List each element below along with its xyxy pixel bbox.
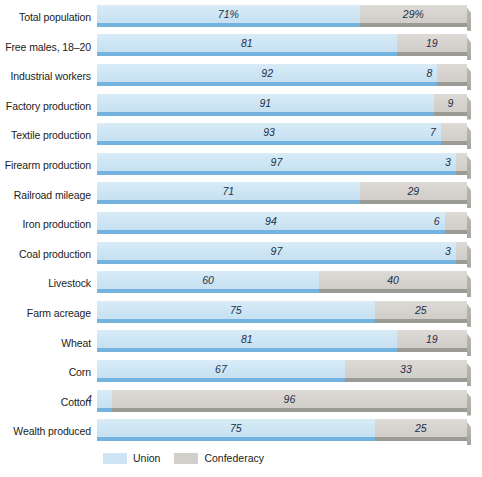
legend-label-confederacy: Confederacy bbox=[204, 452, 264, 464]
bar-track: 7525 bbox=[97, 301, 467, 327]
row-label: Iron production bbox=[0, 219, 97, 231]
bar-value-union: 94 bbox=[265, 215, 277, 227]
chart-row: Firearm production973 bbox=[0, 151, 482, 181]
row-label: Farm acreage bbox=[0, 308, 97, 320]
bar-segment-confederacy[interactable]: 6 bbox=[445, 212, 467, 234]
bar-segment-confederacy[interactable]: 25 bbox=[375, 301, 468, 323]
bar-segment-confederacy[interactable]: 96 bbox=[112, 390, 467, 412]
chart-row: Total population71%29% bbox=[0, 3, 482, 33]
legend-item-union[interactable]: Union bbox=[103, 452, 160, 464]
bar-value-union: 81 bbox=[241, 37, 253, 49]
bar-value-union: 97 bbox=[271, 245, 283, 257]
row-label: Textile production bbox=[0, 130, 97, 142]
bar-value-confederacy: 40 bbox=[387, 274, 399, 286]
stacked-bar[interactable]: 946 bbox=[97, 212, 467, 234]
bar-value-union: 75 bbox=[230, 304, 242, 316]
chart-row: Wealth produced7525 bbox=[0, 417, 482, 447]
row-label: Railroad mileage bbox=[0, 190, 97, 202]
bar-value-union: 71% bbox=[218, 8, 239, 20]
legend-swatch-confederacy-icon bbox=[174, 453, 198, 464]
row-label: Free males, 18–20 bbox=[0, 42, 97, 54]
stacked-bar[interactable]: 973 bbox=[97, 242, 467, 264]
legend-item-confederacy[interactable]: Confederacy bbox=[174, 452, 264, 464]
bar-segment-union[interactable]: 60 bbox=[97, 271, 319, 293]
bar-segment-union[interactable]: 81 bbox=[97, 34, 397, 56]
bar-value-union: 91 bbox=[260, 97, 272, 109]
bar-value-confederacy: 8 bbox=[426, 67, 432, 79]
bar-segment-union[interactable]: 93 bbox=[97, 123, 441, 145]
bar-segment-union[interactable]: 67 bbox=[97, 360, 345, 382]
legend-label-union: Union bbox=[133, 452, 160, 464]
bar-value-union: 92 bbox=[261, 67, 273, 79]
bar-value-confederacy: 25 bbox=[415, 422, 427, 434]
bar-value-confederacy: 29% bbox=[403, 8, 424, 20]
bar-value-union: 97 bbox=[271, 156, 283, 168]
bar-segment-union[interactable]: 75 bbox=[97, 419, 375, 441]
row-label: Coal production bbox=[0, 249, 97, 261]
bar-segment-confederacy[interactable]: 7 bbox=[441, 123, 467, 145]
stacked-bar[interactable]: 7525 bbox=[97, 301, 467, 323]
bar-value-confederacy: 19 bbox=[426, 333, 438, 345]
bar-track: 973 bbox=[97, 242, 467, 268]
bar-segment-confederacy[interactable]: 29% bbox=[360, 5, 467, 27]
stacked-bar[interactable]: 71%29% bbox=[97, 5, 467, 27]
bar-segment-confederacy[interactable]: 19 bbox=[397, 34, 467, 56]
bar-track: 6040 bbox=[97, 271, 467, 297]
chart-legend: Union Confederacy bbox=[103, 452, 264, 464]
stacked-bar[interactable]: 6733 bbox=[97, 360, 467, 382]
stacked-bar[interactable]: 7525 bbox=[97, 419, 467, 441]
bar-value-union: 75 bbox=[230, 422, 242, 434]
bar-segment-union[interactable]: 75 bbox=[97, 301, 375, 323]
bar-segment-confederacy[interactable]: 25 bbox=[375, 419, 468, 441]
stacked-bar[interactable]: 8119 bbox=[97, 330, 467, 352]
bar-segment-union[interactable]: 71% bbox=[97, 5, 360, 27]
bar-segment-confederacy[interactable]: 19 bbox=[397, 330, 467, 352]
bar-value-union: 67 bbox=[215, 363, 227, 375]
bar-value-confederacy: 7 bbox=[430, 126, 436, 138]
chart-row: Textile production937 bbox=[0, 121, 482, 151]
chart-row: Wheat8119 bbox=[0, 329, 482, 359]
bar-segment-union[interactable]: 92 bbox=[97, 64, 437, 86]
chart-row: Industrial workers928 bbox=[0, 62, 482, 92]
row-label: Wheat bbox=[0, 338, 97, 350]
bar-segment-union[interactable]: 91 bbox=[97, 94, 434, 116]
bar-value-confederacy: 9 bbox=[447, 97, 453, 109]
row-label: Livestock bbox=[0, 278, 97, 290]
bar-segment-union[interactable]: 97 bbox=[97, 242, 456, 264]
bar-segment-confederacy[interactable]: 29 bbox=[360, 182, 467, 204]
stacked-bar[interactable]: 496 bbox=[97, 390, 467, 412]
bar-segment-union[interactable]: 71 bbox=[97, 182, 360, 204]
stacked-bar[interactable]: 928 bbox=[97, 64, 467, 86]
bar-segment-confederacy[interactable]: 40 bbox=[319, 271, 467, 293]
bar-segment-union[interactable]: 97 bbox=[97, 153, 456, 175]
stacked-bar[interactable]: 6040 bbox=[97, 271, 467, 293]
bar-segment-confederacy[interactable]: 8 bbox=[437, 64, 467, 86]
bar-segment-confederacy[interactable]: 3 bbox=[456, 153, 467, 175]
bar-track: 937 bbox=[97, 123, 467, 149]
bar-value-confederacy: 3 bbox=[445, 156, 451, 168]
bar-segment-confederacy[interactable]: 33 bbox=[345, 360, 467, 382]
bar-track: 919 bbox=[97, 94, 467, 120]
row-label: Wealth produced bbox=[0, 426, 97, 438]
bar-value-union: 81 bbox=[241, 333, 253, 345]
stacked-bar[interactable]: 973 bbox=[97, 153, 467, 175]
bar-value-confederacy: 29 bbox=[407, 185, 419, 197]
bar-segment-confederacy[interactable]: 3 bbox=[456, 242, 467, 264]
bar-segment-union[interactable]: 4 bbox=[97, 390, 112, 412]
stacked-bar[interactable]: 937 bbox=[97, 123, 467, 145]
bar-segment-union[interactable]: 81 bbox=[97, 330, 397, 352]
bar-track: 946 bbox=[97, 212, 467, 238]
stacked-bar[interactable]: 8119 bbox=[97, 34, 467, 56]
bar-segment-union[interactable]: 94 bbox=[97, 212, 445, 234]
bar-value-union: 93 bbox=[263, 126, 275, 138]
stacked-bar[interactable]: 7129 bbox=[97, 182, 467, 204]
bar-value-confederacy: 6 bbox=[434, 215, 440, 227]
chart-row: Corn6733 bbox=[0, 358, 482, 388]
bar-value-confederacy: 96 bbox=[284, 393, 296, 405]
chart-row: Railroad mileage7129 bbox=[0, 181, 482, 211]
stacked-bar[interactable]: 919 bbox=[97, 94, 467, 116]
bar-track: 973 bbox=[97, 153, 467, 179]
bar-track: 928 bbox=[97, 64, 467, 90]
bar-value-confederacy: 25 bbox=[415, 304, 427, 316]
bar-segment-confederacy[interactable]: 9 bbox=[434, 94, 467, 116]
